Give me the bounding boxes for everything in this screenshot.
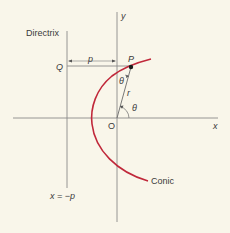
point-p-label: P — [128, 54, 134, 64]
theta-arc-origin — [120, 107, 129, 119]
y-axis-label: y — [120, 11, 126, 21]
directrix-label: Directrix — [26, 28, 59, 38]
directrix-equation-label: x = −p — [49, 191, 75, 201]
arrowhead-left-icon — [68, 60, 72, 63]
conic-diagram: Directrix Q p P y x O r θ θ Conic x = −p — [0, 0, 230, 233]
arrowhead-right-icon — [112, 60, 116, 63]
theta-at-p-label: θ — [119, 76, 124, 86]
diagram-canvas: Directrix Q p P y x O r θ θ Conic x = −p — [0, 0, 230, 233]
r-label: r — [127, 88, 131, 98]
origin-label: O — [108, 121, 115, 131]
arrowhead-icon — [120, 106, 124, 109]
point-p-marker — [129, 65, 133, 69]
q-label: Q — [56, 62, 63, 72]
x-axis-label: x — [212, 121, 218, 131]
conic-label: Conic — [151, 176, 175, 186]
p-distance-label: p — [87, 54, 93, 64]
theta-at-origin-label: θ — [132, 103, 137, 113]
